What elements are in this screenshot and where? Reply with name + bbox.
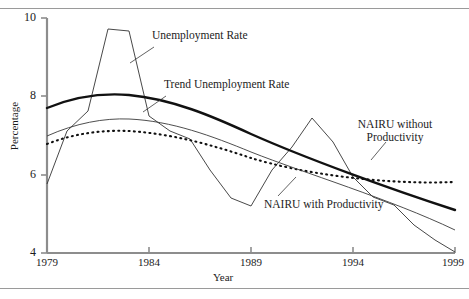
x-tick-label-1989: 1989: [228, 256, 274, 269]
figure-container: 10 8 6 4 1979 1984 1989 1994 1999 Percen…: [0, 0, 469, 299]
y-tick-label-10: 10: [14, 11, 36, 25]
x-tick-label-1984: 1984: [126, 256, 172, 269]
x-tick-label-1999: 1999: [430, 256, 469, 269]
y-axis-title: Percentage: [8, 91, 20, 161]
x-axis-title: Year: [213, 271, 233, 284]
leader-nairu-without-productivity: [371, 142, 386, 160]
annotation-unemployment-rate: Unemployment Rate: [152, 29, 248, 42]
chart-canvas: [0, 0, 469, 299]
x-tick-label-1994: 1994: [330, 256, 376, 269]
y-tick-label-6: 6: [14, 168, 36, 182]
annotation-nairu-without-productivity-line2: Productivity: [345, 131, 445, 144]
x-tick-label-1979: 1979: [24, 256, 70, 269]
annotation-trend-unemployment-rate: Trend Unemployment Rate: [164, 78, 289, 91]
annotation-nairu-without-productivity: NAIRU without Productivity: [345, 118, 445, 144]
leader-nairu-with-productivity: [278, 177, 296, 196]
annotation-nairu-without-productivity-line1: NAIRU without: [345, 118, 445, 131]
annotation-nairu-with-productivity: NAIRU with Productivity: [264, 198, 383, 211]
